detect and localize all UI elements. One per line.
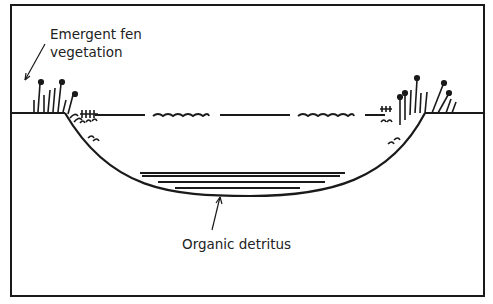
arrow-to-vegetation: [25, 44, 45, 80]
arrow-to-detritus: [212, 197, 222, 230]
label-vegetation-line2: vegetation: [50, 44, 123, 60]
fen-vegetation-left: [34, 80, 99, 141]
label-organic-detritus: Organic detritus: [182, 236, 291, 252]
fen-vegetation-right: [380, 76, 456, 144]
water-surface: [95, 114, 385, 116]
label-vegetation-line1: Emergent fen: [50, 26, 142, 42]
basin-outline: [65, 113, 425, 196]
organic-detritus-layers: [140, 173, 345, 188]
